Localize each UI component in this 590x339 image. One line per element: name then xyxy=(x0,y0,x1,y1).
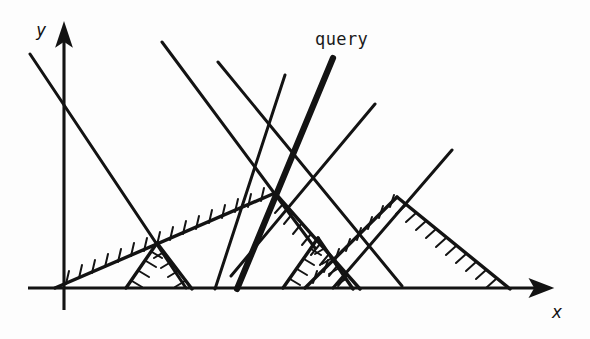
cone-4 xyxy=(305,195,510,289)
ray-group xyxy=(30,42,452,289)
ray-3 xyxy=(218,62,402,286)
cone-1-hatching xyxy=(66,188,347,286)
x-axis-label: x xyxy=(552,304,562,321)
diagram-svg xyxy=(0,0,590,339)
y-axis-arrowhead xyxy=(58,26,70,44)
cone-2-right-edge xyxy=(157,243,192,289)
cone-1 xyxy=(55,188,360,289)
cone-4-right-edge xyxy=(397,197,510,289)
figure-canvas: y x query xyxy=(0,0,590,339)
query-label: query xyxy=(315,29,368,49)
ray-5 xyxy=(333,150,452,288)
x-axis-arrowhead xyxy=(532,281,550,295)
y-axis-label: y xyxy=(36,22,46,39)
